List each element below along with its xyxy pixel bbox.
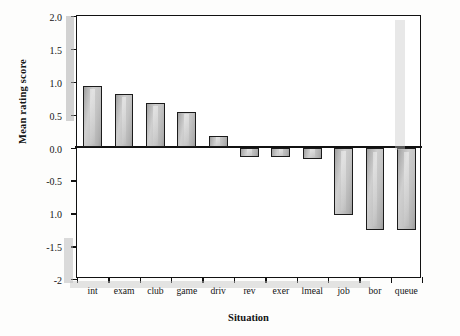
y-axis-tick: 0.5: [71, 115, 77, 116]
bar-queue: [397, 148, 416, 231]
x-axis-tick-label-exam: exam: [114, 285, 135, 336]
bar-job: [334, 148, 353, 215]
scan-artifact: [64, 238, 73, 283]
y-axis-tick-label: -1.5: [46, 242, 62, 253]
y-axis-tick-label: 0.5: [50, 110, 63, 121]
x-axis-tick-label-lmeal: lmeal: [302, 285, 323, 336]
x-axis-tick: [140, 277, 141, 283]
x-axis-tick: [234, 277, 235, 283]
y-axis-tick-label: 1.0: [50, 77, 63, 88]
x-axis-tick-label-queue: queue: [395, 285, 418, 336]
x-axis-tick-label-rev: rev: [243, 285, 255, 336]
figure: Mean rating score 2.01.51.00.50.0-0.51.0…: [0, 0, 460, 336]
bar-game: [177, 112, 196, 148]
y-axis-tick-label: 1.5: [50, 44, 63, 55]
y-axis-tick: 1.0: [71, 82, 77, 83]
y-axis-tick: -1.5: [71, 246, 77, 247]
bar-exam: [115, 94, 134, 148]
bar-rev: [240, 148, 259, 158]
plot-area: 2.01.51.00.50.0-0.51.0-1.5-2 intexamclub…: [76, 15, 421, 278]
x-axis-tick-label-club: club: [147, 285, 164, 336]
x-axis-tick: [77, 277, 78, 283]
x-axis-tick: [297, 277, 298, 283]
y-axis-tick-label: -0.5: [46, 176, 62, 187]
bar-lmeal: [303, 148, 322, 159]
y-axis-tick: 0.0: [71, 148, 77, 149]
x-axis-tick-label-job: job: [337, 285, 349, 336]
bar-bor: [366, 148, 385, 231]
x-axis-tick: [265, 277, 266, 283]
x-axis-tick: [108, 277, 109, 283]
x-axis-tick-label-bor: bor: [369, 285, 382, 336]
bar-int: [83, 86, 102, 148]
bar-club: [146, 103, 165, 147]
x-axis-tick-label-exer: exer: [273, 285, 290, 336]
y-axis-tick: 2.0: [71, 16, 77, 17]
x-axis-tick: [422, 277, 423, 283]
scan-artifact: [66, 16, 74, 121]
y-axis-tick-label: 2.0: [50, 12, 63, 23]
x-axis-tick-label-game: game: [176, 285, 197, 336]
bar-driv: [209, 136, 228, 148]
x-axis-tick-label-driv: driv: [210, 285, 225, 336]
y-axis-tick: 1.0: [71, 213, 77, 214]
x-axis-tick: [391, 277, 392, 283]
y-axis-tick: 1.5: [71, 49, 77, 50]
y-axis-tick: -0.5: [71, 180, 77, 181]
x-axis-tick: [202, 277, 203, 283]
y-axis-tick-label: -2: [54, 275, 62, 286]
y-axis-tick-label: 1.0: [50, 209, 63, 220]
x-axis-tick: [359, 277, 360, 283]
x-axis-tick: [328, 277, 329, 283]
x-axis-title: Situation: [76, 312, 421, 323]
y-axis-tick-label: 0.0: [50, 143, 63, 154]
bar-exer: [271, 148, 290, 158]
x-axis-tick-label-int: int: [88, 285, 98, 336]
x-axis-tick: [171, 277, 172, 283]
y-axis-title: Mean rating score: [17, 37, 28, 167]
